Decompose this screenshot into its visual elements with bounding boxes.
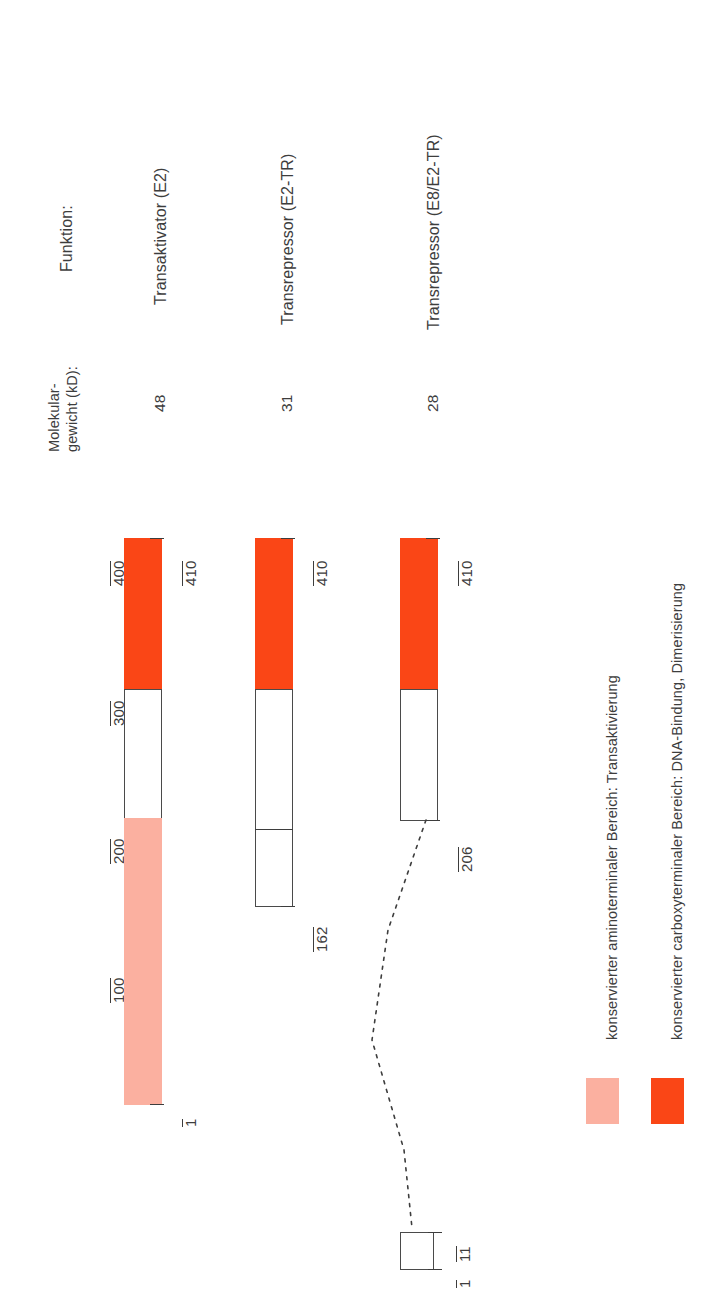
axis-tick-label-200: 200 — [110, 839, 111, 864]
axis-tick-label-300: 300 — [110, 701, 111, 726]
bar-e2tr-label-410: 410 — [313, 561, 314, 586]
header-molekulargewicht-line1: Molekular- — [46, 383, 63, 452]
e8-exon-tick-1 — [428, 1269, 442, 1270]
splice-connector-dotted-line — [350, 810, 470, 1240]
bar-e8e2tr-end-tick-410 — [426, 538, 440, 539]
row-label-funktion-e8e2tr: Transrepressor (E8/E2-TR) — [425, 134, 444, 330]
figure-canvas: Funktion: Molekular- gewicht (kD): Trans… — [0, 0, 722, 1302]
bar-e2tr — [255, 538, 293, 907]
bar-e2-segment-hinge — [124, 689, 162, 819]
bar-e8e2tr-segment-c-terminal — [400, 538, 438, 690]
legend-swatch-aminoterminal — [586, 1078, 619, 1124]
bar-e2-segment-c-terminal — [124, 538, 162, 690]
molecular-weight-e8e2tr: 28 — [424, 395, 442, 412]
bar-e2tr-segment-c-terminal — [255, 538, 293, 690]
legend-swatch-carboxyterminal — [651, 1078, 684, 1124]
bar-e8e2tr — [400, 538, 438, 821]
header-molekulargewicht-line2: gewicht (kD): — [64, 366, 81, 452]
bar-e2tr-start-tick-162 — [281, 906, 295, 907]
bar-e2-start-tick-1 — [150, 1104, 164, 1105]
e8-exon-tick-11 — [428, 1232, 442, 1233]
bar-e2-segment-n-terminal — [124, 818, 162, 1105]
molecular-weight-e2tr: 31 — [278, 395, 296, 412]
bar-e2-label-410: 410 — [182, 561, 183, 586]
bar-e8e2tr-label-410: 410 — [458, 561, 459, 586]
row-label-funktion-e2tr: Transrepressor (E2-TR) — [279, 154, 298, 325]
bar-e8e2tr-segment-hinge — [400, 689, 438, 821]
e8-exon-label-1: 1 — [456, 1280, 457, 1288]
e8-exon-box — [400, 1232, 434, 1270]
row-label-funktion-e2: Transaktivator (E2) — [152, 168, 171, 305]
clipped-header-text — [300, 0, 560, 6]
bar-e2-label-1: 1 — [182, 1119, 183, 1127]
bar-e2tr-segment-hinge — [255, 689, 293, 907]
legend-label-carboxyterminal: konservierter carboxyterminaler Bereich:… — [669, 583, 686, 1040]
molecular-weight-e2: 48 — [151, 395, 169, 412]
bar-e2-end-tick-410 — [150, 538, 164, 539]
axis-tick-label-100: 100 — [110, 978, 111, 1003]
axis-tick-label-400: 400 — [110, 561, 111, 586]
bar-e2tr-label-162: 162 — [313, 927, 314, 952]
bar-e2tr-end-tick-410 — [281, 538, 295, 539]
header-funktion: Funktion: — [58, 205, 77, 272]
bar-e2tr-internal-divider — [255, 829, 293, 830]
e8-exon-label-11: 11 — [456, 1246, 457, 1262]
legend-label-aminoterminal: konservierter aminoterminaler Bereich: T… — [604, 675, 621, 1040]
bar-e2 — [124, 538, 162, 1105]
